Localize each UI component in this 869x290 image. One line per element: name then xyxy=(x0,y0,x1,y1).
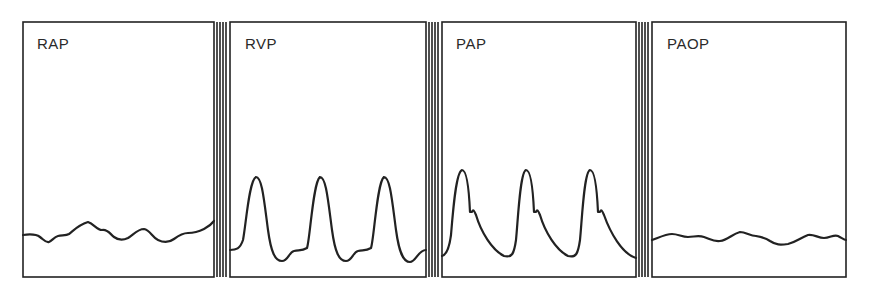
waveform-paop xyxy=(652,232,846,245)
panel-separator xyxy=(429,22,438,277)
waveform-diagram xyxy=(0,0,869,290)
waveform-rap xyxy=(23,221,214,242)
waveform-pap xyxy=(442,170,636,258)
panel-separator xyxy=(217,22,226,277)
panel-label-rap: RAP xyxy=(37,36,69,51)
panel-separator xyxy=(639,22,648,277)
waveform-rvp xyxy=(230,177,426,262)
panel-label-pap: PAP xyxy=(456,36,486,51)
panel-label-rvp: RVP xyxy=(245,36,277,51)
panel-label-paop: PAOP xyxy=(667,36,710,51)
pressure-waveform-figure: RAP RVP PAP PAOP xyxy=(0,0,869,290)
panel-pap-frame xyxy=(442,22,636,277)
panel-paop-frame xyxy=(652,22,846,277)
